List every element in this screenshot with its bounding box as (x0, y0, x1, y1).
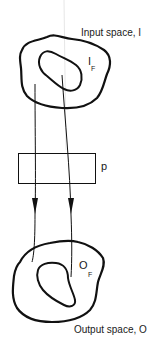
output-space-label: Output space, O (74, 325, 147, 335)
input-failure-subscript: F (91, 65, 95, 72)
input-space-label: Input space, I (81, 28, 141, 38)
output-failure-region (37, 263, 75, 307)
mapping-arrow-outer (32, 84, 35, 262)
process-box (19, 154, 96, 184)
output-failure-symbol: O (79, 260, 88, 271)
process-label: p (101, 161, 107, 172)
diagram-canvas (0, 0, 166, 350)
arrowhead-inner-icon (68, 198, 74, 214)
arrowhead-outer-icon (32, 198, 38, 214)
output-space-outer-region (13, 241, 104, 322)
input-failure-region (39, 51, 82, 90)
mapping-arrow-inner (62, 75, 72, 277)
output-failure-subscript: F (88, 271, 92, 278)
